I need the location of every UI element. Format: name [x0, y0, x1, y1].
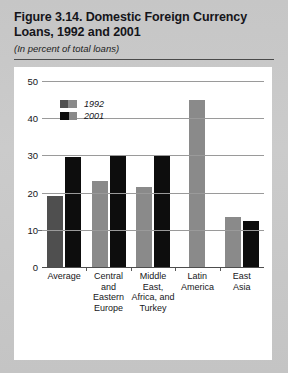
x-label-line: Eastern — [86, 292, 130, 303]
y-tick-label-10: 10 — [27, 224, 38, 235]
x-label-line: Middle — [131, 271, 175, 282]
x-label-line: Latin — [175, 271, 219, 282]
y-tick-label-30: 30 — [27, 150, 38, 161]
bar-1992-0 — [47, 196, 63, 267]
gridline-10 — [42, 230, 264, 231]
figure-subtitle: (In percent of total loans) — [14, 43, 274, 54]
legend-item-1992: 1992 — [60, 99, 104, 109]
x-axis-line — [42, 267, 264, 268]
y-tick-label-0: 0 — [33, 262, 38, 273]
bar-1992-1 — [92, 181, 108, 267]
legend-label-1992: 1992 — [84, 99, 104, 109]
x-label-3: LatinAmerica — [175, 271, 219, 292]
x-axis-labels: AverageCentralandEasternEuropeMiddleEast… — [42, 271, 264, 333]
x-label-line: Average — [42, 271, 86, 282]
title-divider — [14, 59, 274, 60]
x-label-4: EastAsia — [220, 271, 264, 292]
x-label-line: and — [86, 282, 130, 293]
x-label-line: America — [175, 282, 219, 293]
gridline-20 — [42, 193, 264, 194]
x-label-line: East, — [131, 282, 175, 293]
y-tick-label-50: 50 — [27, 76, 38, 87]
gridline-50 — [42, 81, 264, 82]
x-label-1: CentralandEasternEurope — [86, 271, 130, 313]
legend-item-2001: 2001 — [60, 111, 104, 121]
y-tick-label-40: 40 — [27, 113, 38, 124]
bar-1992-3 — [189, 100, 205, 267]
bar-1992-4 — [225, 217, 241, 267]
x-label-2: MiddleEast,Africa, andTurkey — [131, 271, 175, 313]
chart-panel: 01020304050 1992 2001 AverageCentralandE… — [14, 67, 272, 360]
legend-swatch-1992 — [60, 100, 77, 108]
legend-swatch-2001 — [60, 112, 77, 120]
x-label-line: Central — [86, 271, 130, 282]
bar-2001-4 — [243, 221, 259, 268]
y-tick-label-20: 20 — [27, 187, 38, 198]
gridline-30 — [42, 155, 264, 156]
bar-2001-0 — [65, 157, 81, 267]
page-title: Figure 3.14. Domestic Foreign Currency L… — [14, 10, 274, 40]
x-label-line: East — [220, 271, 264, 282]
chart-legend: 1992 2001 — [60, 99, 104, 123]
x-label-line: Asia — [220, 282, 264, 293]
y-tick-mark-10 — [38, 230, 42, 231]
bar-2001-2 — [154, 155, 170, 267]
x-label-line: Europe — [86, 303, 130, 314]
legend-label-2001: 2001 — [84, 111, 104, 121]
bar-1992-2 — [136, 187, 152, 267]
figure-container: Figure 3.14. Domestic Foreign Currency L… — [0, 0, 288, 373]
x-label-line: Turkey — [131, 303, 175, 314]
x-label-line: Africa, and — [131, 292, 175, 303]
bar-2001-1 — [110, 155, 126, 267]
x-label-0: Average — [42, 271, 86, 282]
